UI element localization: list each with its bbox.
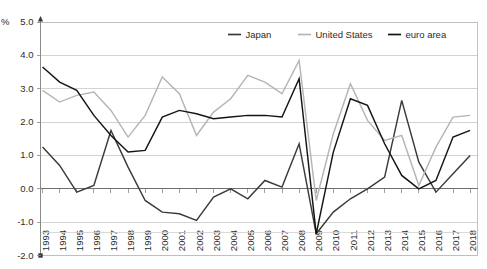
y-axis: 5.04.03.02.01.00.0-1.0-2.0%	[1, 16, 43, 261]
inflation-line-chart: 5.04.03.02.01.00.0-1.0-2.0% 199319941995…	[0, 0, 487, 269]
x-tick-label: 1997	[108, 230, 119, 251]
x-tick-label: 2004	[228, 230, 239, 251]
y-tick-label: 3.0	[20, 83, 33, 94]
y-tick-label: 0.0	[20, 183, 33, 194]
x-tick-label: 1998	[125, 230, 136, 251]
x-tick-label: 2014	[399, 230, 410, 251]
x-tick-label: 2011	[348, 230, 359, 250]
x-axis: 1993199419951996199719981999200020012002…	[40, 189, 479, 251]
chart-legend: JapanUnited Stateseuro area	[228, 29, 447, 40]
y-tick-label: -2.0	[17, 250, 33, 261]
x-tick-label: 2015	[416, 230, 427, 251]
data-series	[43, 60, 471, 233]
y-axis-unit-label: %	[1, 16, 10, 27]
x-tick-label: 2018	[467, 230, 478, 251]
y-tick-label: 2.0	[20, 116, 33, 127]
x-tick-label: 2010	[330, 230, 341, 251]
series-line-japan	[43, 100, 471, 233]
x-tick-label: 2000	[159, 230, 170, 251]
x-tick-label: 1999	[142, 230, 153, 251]
x-tick-label: 1996	[91, 230, 102, 251]
legend-label-japan: Japan	[246, 29, 272, 40]
x-tick-label: 2006	[262, 230, 273, 251]
x-tick-label: 2008	[296, 230, 307, 251]
x-tick-label: 2005	[245, 230, 256, 251]
y-axis-arrow-icon	[38, 16, 43, 22]
y-tick-label: 1.0	[20, 149, 33, 160]
series-line-euro-area	[43, 67, 471, 234]
x-tick-label: 2007	[279, 230, 290, 251]
legend-label-euro-area: euro area	[406, 29, 447, 40]
legend-label-united-states: United States	[316, 29, 373, 40]
x-tick-label: 2003	[211, 230, 222, 251]
chart-canvas: 5.04.03.02.01.00.0-1.0-2.0% 199319941995…	[0, 0, 487, 269]
x-tick-label: 1993	[40, 230, 51, 251]
x-tick-label: 2002	[194, 230, 205, 251]
x-tick-label: 2017	[450, 230, 461, 251]
x-tick-label: 1994	[57, 230, 68, 251]
x-tick-label: 2013	[382, 230, 393, 251]
x-tick-label: 2016	[433, 230, 444, 251]
x-tick-label: 1995	[74, 230, 85, 251]
x-tick-label: 2001	[176, 230, 187, 251]
y-tick-label: 5.0	[20, 16, 33, 27]
x-tick-label: 2009	[313, 230, 324, 251]
x-tick-label: 2012	[365, 230, 376, 251]
y-tick-label: 4.0	[20, 49, 33, 60]
y-tick-label: -1.0	[17, 216, 33, 227]
